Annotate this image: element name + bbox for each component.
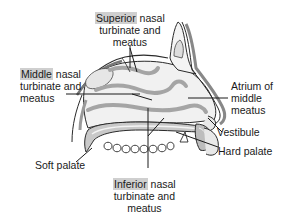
palate-shape xyxy=(85,122,219,155)
label-inferior-turbinate: Inferior nasal turbinate and meatus xyxy=(113,178,176,214)
label-superior-turbinate: Superior nasal turbinate and meatus xyxy=(95,12,165,48)
highlight-superior: Superior xyxy=(95,12,137,24)
label-hard-palate: Hard palate xyxy=(218,145,272,157)
highlight-middle: Middle xyxy=(20,68,53,80)
label-middle-turbinate: Middle nasal turbinate and meatus xyxy=(20,68,81,104)
label-atrium-middle-meatus: Atrium of middle meatus xyxy=(231,80,273,116)
highlight-inferior: Inferior xyxy=(113,178,148,190)
label-soft-palate: Soft palate xyxy=(35,159,85,171)
label-vestibule: Vestibule xyxy=(217,126,260,138)
